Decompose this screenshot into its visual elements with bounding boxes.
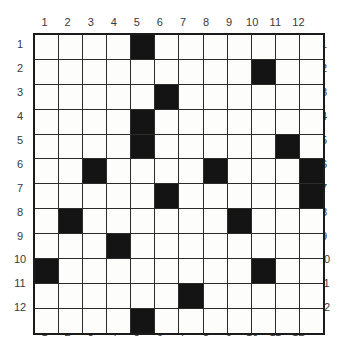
grid-cell-r2-c10[interactable] <box>251 59 275 84</box>
grid-cell-r10-c2[interactable] <box>59 259 83 284</box>
grid-cell-r5-c3[interactable] <box>83 134 107 159</box>
grid-cell-r1-c2[interactable] <box>59 34 83 59</box>
grid-cell-r9-c11[interactable] <box>275 234 299 259</box>
grid-cell-r8-c8[interactable] <box>203 209 227 234</box>
grid-cell-r9-c8[interactable] <box>203 234 227 259</box>
grid-cell-r2-c4[interactable] <box>107 59 131 84</box>
grid-cell-r5-c8[interactable] <box>203 134 227 159</box>
grid-cell-r7-c11[interactable] <box>275 184 299 209</box>
grid-cell-r11-c11[interactable] <box>275 283 299 308</box>
grid-cell-r5-c5[interactable] <box>131 134 155 159</box>
grid-cell-r7-c4[interactable] <box>107 184 131 209</box>
grid-cell-r2-c8[interactable] <box>203 59 227 84</box>
grid-cell-r3-c6[interactable] <box>155 84 179 109</box>
grid-cell-r7-c10[interactable] <box>251 184 275 209</box>
grid-cell-r10-c11[interactable] <box>275 259 299 284</box>
grid-cell-r10-c3[interactable] <box>83 259 107 284</box>
grid-cell-r7-c5[interactable] <box>131 184 155 209</box>
grid-cell-r6-c8[interactable] <box>203 159 227 184</box>
grid-cell-r1-c8[interactable] <box>203 34 227 59</box>
grid-cell-r1-c9[interactable] <box>227 34 251 59</box>
grid-cell-r9-c4[interactable] <box>107 234 131 259</box>
grid-cell-r6-c2[interactable] <box>59 159 83 184</box>
grid-cell-r8-c12[interactable] <box>299 209 324 234</box>
grid-cell-r7-c7[interactable] <box>179 184 203 209</box>
grid-cell-r2-c11[interactable] <box>275 59 299 84</box>
grid-cell-r6-c5[interactable] <box>131 159 155 184</box>
grid-cell-r2-c2[interactable] <box>59 59 83 84</box>
grid-cell-r3-c2[interactable] <box>59 84 83 109</box>
grid-cell-r2-c5[interactable] <box>131 59 155 84</box>
grid-cell-r5-c11[interactable] <box>275 134 299 159</box>
grid-cell-r6-c7[interactable] <box>179 159 203 184</box>
grid-cell-r12-c11[interactable] <box>275 308 299 333</box>
grid-cell-r3-c1[interactable] <box>34 84 59 109</box>
grid-cell-r5-c12[interactable] <box>299 134 324 159</box>
grid-cell-r5-c9[interactable] <box>227 134 251 159</box>
grid-cell-r9-c3[interactable] <box>83 234 107 259</box>
grid-cell-r7-c3[interactable] <box>83 184 107 209</box>
grid-cell-r5-c2[interactable] <box>59 134 83 159</box>
grid-cell-r9-c10[interactable] <box>251 234 275 259</box>
grid-cell-r8-c6[interactable] <box>155 209 179 234</box>
grid-cell-r2-c6[interactable] <box>155 59 179 84</box>
grid-cell-r9-c1[interactable] <box>34 234 59 259</box>
grid-cell-r8-c5[interactable] <box>131 209 155 234</box>
grid-cell-r5-c10[interactable] <box>251 134 275 159</box>
grid-cell-r6-c9[interactable] <box>227 159 251 184</box>
grid-cell-r11-c1[interactable] <box>34 283 59 308</box>
grid-cell-r12-c7[interactable] <box>179 308 203 333</box>
grid-cell-r7-c2[interactable] <box>59 184 83 209</box>
grid-cell-r10-c5[interactable] <box>131 259 155 284</box>
grid-cell-r1-c12[interactable] <box>299 34 324 59</box>
grid-cell-r9-c7[interactable] <box>179 234 203 259</box>
grid-cell-r6-c4[interactable] <box>107 159 131 184</box>
grid-cell-r9-c6[interactable] <box>155 234 179 259</box>
grid-cell-r2-c9[interactable] <box>227 59 251 84</box>
grid-cell-r8-c7[interactable] <box>179 209 203 234</box>
grid-cell-r11-c8[interactable] <box>203 283 227 308</box>
grid-cell-r4-c1[interactable] <box>34 109 59 134</box>
grid-cell-r1-c5[interactable] <box>131 34 155 59</box>
grid-cell-r10-c9[interactable] <box>227 259 251 284</box>
grid-cell-r11-c2[interactable] <box>59 283 83 308</box>
grid-cell-r12-c1[interactable] <box>34 308 59 333</box>
grid-cell-r11-c12[interactable] <box>299 283 324 308</box>
grid-cell-r7-c6[interactable] <box>155 184 179 209</box>
grid-cell-r11-c4[interactable] <box>107 283 131 308</box>
grid-cell-r1-c4[interactable] <box>107 34 131 59</box>
grid-cell-r5-c1[interactable] <box>34 134 59 159</box>
grid-cell-r6-c1[interactable] <box>34 159 59 184</box>
grid-cell-r10-c7[interactable] <box>179 259 203 284</box>
grid-cell-r2-c1[interactable] <box>34 59 59 84</box>
grid-cell-r8-c4[interactable] <box>107 209 131 234</box>
grid-cell-r4-c7[interactable] <box>179 109 203 134</box>
grid-cell-r9-c9[interactable] <box>227 234 251 259</box>
grid-cell-r7-c12[interactable] <box>299 184 324 209</box>
grid-cell-r8-c1[interactable] <box>34 209 59 234</box>
grid-cell-r11-c5[interactable] <box>131 283 155 308</box>
grid-cell-r2-c12[interactable] <box>299 59 324 84</box>
grid-cell-r3-c4[interactable] <box>107 84 131 109</box>
grid-cell-r9-c12[interactable] <box>299 234 324 259</box>
grid-cell-r7-c8[interactable] <box>203 184 227 209</box>
grid-cell-r9-c5[interactable] <box>131 234 155 259</box>
grid-cell-r4-c4[interactable] <box>107 109 131 134</box>
grid-cell-r4-c6[interactable] <box>155 109 179 134</box>
grid-cell-r1-c11[interactable] <box>275 34 299 59</box>
grid-cell-r3-c5[interactable] <box>131 84 155 109</box>
grid-cell-r10-c1[interactable] <box>34 259 59 284</box>
grid-cell-r6-c12[interactable] <box>299 159 324 184</box>
grid-cell-r12-c4[interactable] <box>107 308 131 333</box>
grid-cell-r10-c6[interactable] <box>155 259 179 284</box>
grid-cell-r12-c3[interactable] <box>83 308 107 333</box>
grid-cell-r3-c10[interactable] <box>251 84 275 109</box>
grid-cell-r11-c7[interactable] <box>179 283 203 308</box>
grid-cell-r11-c9[interactable] <box>227 283 251 308</box>
grid-cell-r10-c12[interactable] <box>299 259 324 284</box>
grid-cell-r11-c3[interactable] <box>83 283 107 308</box>
grid-cell-r11-c10[interactable] <box>251 283 275 308</box>
grid-cell-r1-c1[interactable] <box>34 34 59 59</box>
grid-cell-r1-c3[interactable] <box>83 34 107 59</box>
grid-cell-r6-c10[interactable] <box>251 159 275 184</box>
